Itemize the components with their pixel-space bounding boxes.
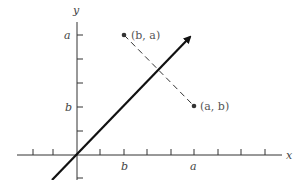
reflection-diagram: y x a b b a (b, a) (a, b) (0, 0, 302, 180)
y-ticks (77, 35, 83, 178)
y-axis-label: y (72, 4, 80, 17)
point-a-b (192, 104, 197, 109)
y-tick-label-a: a (64, 29, 71, 42)
x-tick-label-b: b (121, 160, 128, 173)
x-axis-label: x (286, 149, 293, 162)
point-label-a-b: (a, b) (200, 100, 229, 113)
x-tick-label-a: a (190, 160, 197, 173)
x-ticks (33, 149, 265, 155)
point-label-b-a: (b, a) (131, 29, 160, 42)
point-b-a (122, 33, 127, 38)
line-y-equals-x (52, 37, 190, 180)
y-tick-label-b: b (65, 101, 72, 114)
